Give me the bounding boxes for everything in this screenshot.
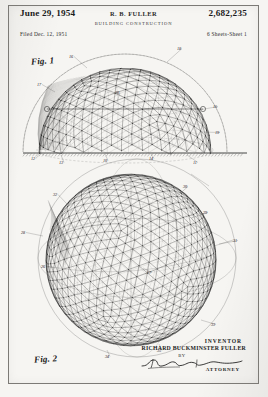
reference-numeral: 29 (203, 210, 207, 215)
reference-numeral: 10 (103, 158, 107, 163)
reference-numeral: 16 (69, 54, 73, 59)
reference-numeral: 14 (149, 156, 153, 161)
reference-leader-lines (26, 49, 238, 357)
signature-block: INVENTOR RICHARD BUCKMINSTER FULLER BY A… (140, 338, 246, 372)
reference-numeral: 33 (211, 322, 215, 327)
ground-line (23, 153, 247, 156)
reference-numeral: 17 (37, 82, 41, 87)
reference-numeral: 35 (157, 348, 161, 353)
reference-numeral: 31 (233, 238, 237, 243)
reference-numeral: 20 (115, 90, 119, 95)
reference-numeral: 27 (147, 270, 151, 275)
drawing-area: Fig. 1 Fig. 2 INVENTOR RICHARD BUCKMINST… (9, 6, 258, 383)
patent-sheet-page: June 29, 1954 R. B. FULLER 2,682,235 BUI… (0, 0, 268, 397)
reference-numeral: 13 (59, 160, 63, 165)
figure-1-label: Fig. 1 (31, 55, 55, 67)
inventor-full-name: RICHARD BUCKMINSTER FULLER (140, 345, 246, 351)
reference-numeral: 15 (213, 104, 217, 109)
reference-numeral: 30 (183, 184, 187, 189)
reference-numeral: 18 (177, 46, 181, 51)
reference-numeral: 12 (31, 156, 35, 161)
dome-lattice-framework (39, 68, 211, 154)
inventor-label: INVENTOR (140, 338, 246, 344)
reference-numeral: 26 (41, 264, 45, 269)
reference-numeral: 11 (193, 160, 197, 165)
reference-numeral: 32 (53, 192, 57, 197)
figure-2-geodesic-sphere (38, 159, 236, 357)
reference-numeral: 19 (215, 130, 219, 135)
reference-numeral: 34 (105, 354, 109, 359)
reference-numeral: 28 (21, 230, 25, 235)
figure-2-label: Fig. 2 (34, 353, 58, 365)
